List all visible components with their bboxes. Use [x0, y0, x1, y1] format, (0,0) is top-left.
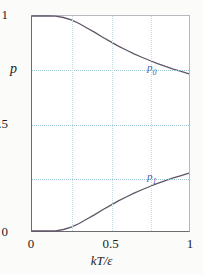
gridline-horizontal [32, 125, 189, 126]
chart-figure: 00.51 00.51 p0p1 p kT/ε [0, 0, 203, 275]
gridline-vertical [72, 16, 73, 231]
curve-p1 [32, 173, 189, 231]
annotation-p0: p0 [147, 62, 157, 77]
x-tick-label: 1 [187, 236, 194, 252]
annotation-p1: p1 [147, 170, 157, 185]
y-tick-label: 0.5 [0, 116, 8, 132]
gridline-horizontal [32, 179, 189, 180]
y-tick-label: 1 [2, 7, 9, 23]
annotation-subscript: 0 [153, 68, 157, 77]
x-tick-label: 0 [28, 236, 35, 252]
gridline-vertical [112, 16, 113, 231]
curve-p0 [32, 16, 189, 74]
y-tick-label: 0 [2, 224, 9, 240]
gridline-horizontal [32, 70, 189, 71]
x-tick-label: 0.5 [102, 236, 118, 252]
x-axis-label: kT/ε [0, 253, 203, 269]
curve-layer [32, 16, 189, 231]
y-axis-label: p [10, 61, 17, 77]
gridline-vertical [151, 16, 152, 231]
plot-area [31, 15, 190, 232]
annotation-subscript: 1 [153, 176, 157, 185]
